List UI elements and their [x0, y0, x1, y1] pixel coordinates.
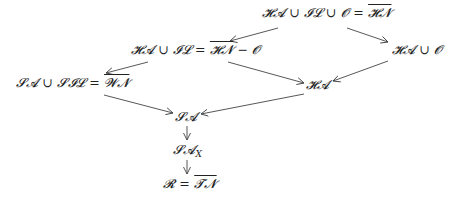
node-label: 𝓡 = [163, 176, 194, 191]
edge-n3-n5 [333, 61, 388, 81]
node-label: 𝓢𝓐 ∪ 𝓢𝓘𝓛 = [16, 75, 104, 90]
node-ha-o: 𝓗𝓐 ∪ 𝓞 [392, 43, 443, 57]
node-label: 𝓢𝓐 [175, 109, 197, 124]
node-label: 𝓢𝓐 [173, 142, 195, 157]
node-overline-term: 𝓣𝓝 [194, 176, 216, 191]
edge-n1-n3 [347, 28, 388, 42]
node-ha-il-o: 𝓗𝓐 ∪ 𝓘𝓛 ∪ 𝓞 = 𝓗𝓝 [262, 6, 391, 20]
edge-n1-n2 [230, 28, 278, 41]
edge-n4-n6 [104, 95, 173, 113]
node-ha-il: 𝓗𝓐 ∪ 𝓘𝓛 = 𝓗𝓝 − 𝓞 [131, 43, 260, 57]
edge-n5-n6 [201, 94, 304, 114]
node-sa-x: 𝓢𝓐X [173, 143, 202, 161]
node-sa: 𝓢𝓐 [175, 110, 197, 124]
edge-n2-n5 [228, 62, 304, 83]
node-r-tn: 𝓡 = 𝓣𝓝 [163, 177, 217, 191]
diagram-canvas: 𝓗𝓐 ∪ 𝓘𝓛 ∪ 𝓞 = 𝓗𝓝 𝓗𝓐 ∪ 𝓘𝓛 = 𝓗𝓝 − 𝓞 𝓗𝓐 ∪ 𝓞… [0, 0, 449, 201]
edge-n2-n4 [106, 62, 148, 73]
node-label: 𝓗𝓐 [306, 77, 329, 92]
node-label: 𝓗𝓐 ∪ 𝓘𝓛 = [131, 42, 210, 57]
edges-layer [0, 0, 449, 201]
node-overline-term: 𝓗𝓝 [210, 42, 233, 57]
node-label: 𝓗𝓐 ∪ 𝓞 [392, 42, 443, 57]
node-suffix: − 𝓞 [233, 42, 260, 57]
node-ha: 𝓗𝓐 [306, 78, 329, 92]
node-overline-term: 𝓗𝓝 [368, 5, 391, 20]
node-subscript: X [195, 149, 202, 159]
node-label: 𝓗𝓐 ∪ 𝓘𝓛 ∪ 𝓞 = [262, 5, 368, 20]
node-sa-sil: 𝓢𝓐 ∪ 𝓢𝓘𝓛 = 𝓦𝓝 [16, 76, 129, 90]
node-overline-term: 𝓦𝓝 [104, 75, 129, 90]
